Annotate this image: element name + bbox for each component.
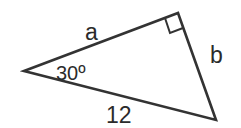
hypotenuse-label: 12 [106,102,132,128]
side-a-label: a [85,19,98,45]
angle-label: 30º [56,62,86,84]
side-b-label: b [210,42,223,68]
triangle-diagram: a b 12 30º [0,0,241,128]
